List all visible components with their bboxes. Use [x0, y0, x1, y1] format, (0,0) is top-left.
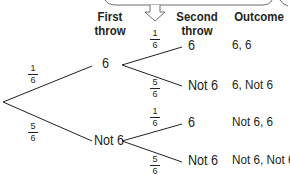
- node-first-not6: Not 6: [94, 132, 124, 148]
- branch-root-to-6: [3, 66, 92, 102]
- node-6-6: 6: [188, 37, 195, 53]
- node-first-6: 6: [102, 55, 109, 71]
- outcome-not6-not6: Not 6, Not 6: [232, 152, 290, 168]
- node-6-not6: Not 6: [188, 77, 218, 93]
- prob-not6-6: 1 6: [150, 107, 160, 128]
- branch-root-to-not6: [3, 102, 92, 141]
- outcome-not6-6: Not 6, 6: [232, 114, 273, 130]
- arrow-down-icon: [145, 5, 165, 21]
- prob-first-not6: 5 6: [28, 122, 38, 143]
- outcome-6-not6: 6, Not 6: [232, 77, 273, 93]
- node-not6-6: 6: [188, 114, 195, 130]
- header-second-throw: Second throw: [175, 10, 219, 38]
- prob-not6-not6: 5 6: [150, 155, 160, 176]
- header-outcome: Outcome: [233, 10, 284, 24]
- prob-6-not6: 5 6: [150, 78, 160, 99]
- header-first-throw: First throw: [91, 10, 130, 38]
- prob-first-6: 1 6: [28, 64, 38, 85]
- node-not6-not6: Not 6: [188, 152, 218, 168]
- callout-bubble-edge: [105, 0, 272, 5]
- prob-6-6: 1 6: [150, 29, 160, 50]
- callout-bubble-edge-right: [280, 0, 288, 6]
- outcome-6-6: 6, 6: [232, 37, 252, 53]
